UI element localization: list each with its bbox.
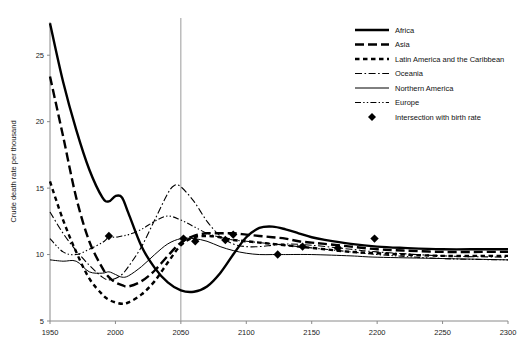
legend-group: AfricaAsiaLatin America and the Caribbea… [355, 26, 504, 122]
legend-label-latin-america-and-the-caribbean: Latin America and the Caribbean [395, 55, 504, 64]
y-ticks-group: 510152025 [36, 51, 50, 326]
crude-death-rate-chart: 5101520251950200020502100215022002250230… [0, 0, 521, 356]
legend-label-oceania: Oceania [395, 69, 424, 78]
series-line-latin-america-and-the-caribbean [50, 181, 508, 303]
intersection-marker-5 [229, 230, 237, 238]
y-tick-label-20: 20 [36, 117, 44, 126]
series-line-oceania [50, 185, 508, 280]
legend-swatch-diamond-marker [368, 113, 376, 121]
y-tick-label-25: 25 [36, 51, 44, 60]
x-tick-label-2150: 2150 [303, 328, 320, 337]
y-axis-title: Crude death rate per thousand [9, 120, 18, 222]
legend-label-intersection-with-birth-rate: Intersection with birth rate [395, 113, 481, 122]
series-group [50, 23, 508, 303]
legend-label-africa: Africa [395, 26, 415, 35]
x-tick-label-2050: 2050 [173, 328, 190, 337]
legend-label-northern-america: Northern America [395, 84, 454, 93]
x-tick-label-2000: 2000 [107, 328, 124, 337]
x-tick-label-2250: 2250 [434, 328, 451, 337]
intersection-marker-6 [273, 250, 281, 258]
x-tick-label-1950: 1950 [42, 328, 59, 337]
intersection-marker-7 [298, 242, 306, 250]
x-ticks-group: 19502000205021002150220022502300 [42, 321, 517, 337]
y-tick-label-5: 5 [40, 317, 44, 326]
y-tick-label-15: 15 [36, 184, 44, 193]
intersection-marker-9 [370, 234, 378, 242]
x-tick-label-2100: 2100 [238, 328, 255, 337]
legend-label-europe: Europe [395, 98, 419, 107]
chart-canvas: 5101520251950200020502100215022002250230… [0, 0, 521, 356]
y-tick-label-10: 10 [36, 250, 44, 259]
intersection-marker-4 [221, 236, 229, 244]
x-tick-label-2200: 2200 [369, 328, 386, 337]
x-tick-label-2300: 2300 [500, 328, 517, 337]
legend-label-asia: Asia [395, 40, 410, 49]
